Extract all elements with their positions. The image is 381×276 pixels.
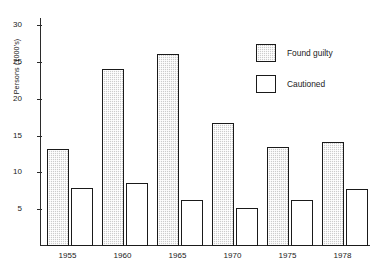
legend-label-found-guilty: Found guilty [287,49,333,58]
bar-cautioned-1975 [291,200,313,246]
legend-item-cautioned: Cautioned [256,75,333,93]
x-axis-label-1978: 1978 [315,252,370,260]
bar-found-guilty-1970 [212,123,234,246]
y-axis-line [40,18,41,246]
chart-legend: Found guilty Cautioned [256,44,333,106]
y-axis-tick [37,209,42,210]
y-axis-tick-label: 20 [0,95,22,103]
bar-cautioned-1955 [71,188,93,246]
bar-cautioned-1970 [236,208,258,246]
x-axis-label-1960: 1960 [95,252,150,260]
x-axis-label-1975: 1975 [260,252,315,260]
y-axis-tick-label: 30 [0,21,22,29]
y-axis-tick-label: 25 [0,58,22,66]
y-axis-tick [37,25,42,26]
x-axis-label-1955: 1955 [40,252,95,260]
bar-chart: Persons (1000's) 51015202530 19551960196… [0,0,381,276]
bar-cautioned-1965 [181,200,203,246]
bar-found-guilty-1975 [267,147,289,246]
legend-item-found-guilty: Found guilty [256,44,333,62]
bar-cautioned-1960 [126,183,148,246]
x-axis-label-1970: 1970 [205,252,260,260]
bar-found-guilty-1965 [157,54,179,246]
legend-label-cautioned: Cautioned [287,80,325,89]
x-axis-label-1965: 1965 [150,252,205,260]
bar-found-guilty-1955 [47,149,69,246]
y-axis-tick [37,136,42,137]
y-axis-tick [37,172,42,173]
y-axis-tick [37,62,42,63]
y-axis-tick-label: 10 [0,168,22,176]
legend-swatch-found-guilty [256,44,276,62]
legend-swatch-cautioned [256,75,276,93]
bar-cautioned-1978 [346,189,368,246]
y-axis-tick [37,99,42,100]
y-axis-tick-label: 15 [0,132,22,140]
y-axis-tick-label: 5 [0,205,22,213]
bar-found-guilty-1978 [322,142,344,246]
bar-found-guilty-1960 [102,69,124,246]
